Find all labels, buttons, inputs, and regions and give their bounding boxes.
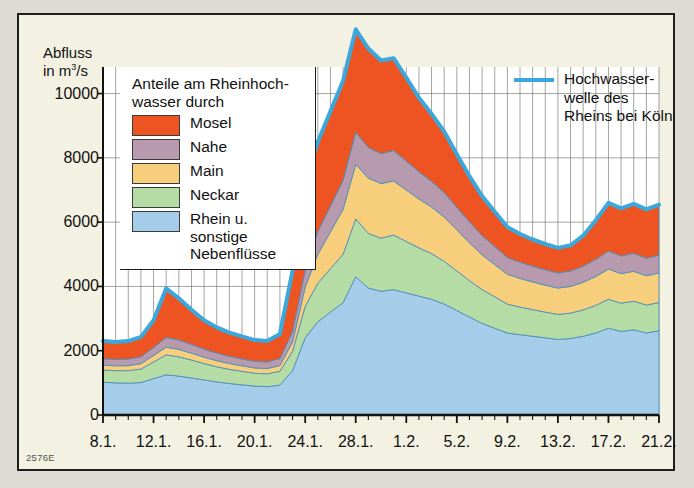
- y-tick-label: 2000: [63, 342, 99, 360]
- x-tick-label: 1.2.: [393, 433, 420, 451]
- legend-item-label: Neckar: [190, 186, 239, 204]
- legend-series: Anteile am Rheinhoch- wasser durch Mosel…: [120, 67, 316, 270]
- legend-color-swatch-icon: [132, 163, 180, 184]
- x-tick-label: 21.2.: [641, 433, 677, 451]
- x-tick-label: 16.1.: [186, 433, 222, 451]
- x-tick-label: 17.2.: [591, 433, 627, 451]
- x-axis-ticks: 8.1.12.1.16.1.20.1.24.1.28.1.1.2.5.2.9.2…: [19, 433, 673, 457]
- x-tick-label: 8.1.: [90, 433, 117, 451]
- legend-item-label: Main: [190, 162, 224, 180]
- figure-frame: Abflussin m3/s 0200040006000800010000 8.…: [17, 13, 675, 471]
- x-tick-label: 28.1.: [338, 433, 374, 451]
- legend-item-label: Nahe: [190, 138, 227, 156]
- y-tick-label: 4000: [63, 277, 99, 295]
- legend-total-line: Hochwasser- welle des Rheins bei Köln: [514, 70, 673, 126]
- x-tick-label: 13.2.: [540, 433, 576, 451]
- y-tick-label: 6000: [63, 213, 99, 231]
- y-tick-label: 8000: [63, 149, 99, 167]
- x-tick-label: 5.2.: [443, 433, 470, 451]
- legend-item: Rhein u. sonstige Nebenflüsse: [132, 210, 309, 263]
- legend-title: Anteile am Rheinhoch- wasser durch: [132, 75, 309, 111]
- legend-total-line-label: Hochwasser- welle des Rheins bei Köln: [564, 70, 673, 126]
- legend-item-label: Rhein u. sonstige Nebenflüsse: [190, 210, 309, 263]
- y-tick-label: 0: [90, 406, 99, 424]
- line-swatch-icon: [514, 78, 554, 82]
- x-tick-label: 9.2.: [494, 433, 521, 451]
- y-axis-ticks: 0200040006000800010000: [19, 15, 99, 469]
- x-tick-label: 20.1.: [237, 433, 273, 451]
- figure-code: 2576E: [26, 452, 55, 463]
- legend-item: Neckar: [132, 186, 309, 208]
- legend-color-swatch-icon: [132, 115, 180, 136]
- x-tick-label: 24.1.: [287, 433, 323, 451]
- legend-item: Mosel: [132, 114, 309, 136]
- legend-item: Main: [132, 162, 309, 184]
- legend-color-swatch-icon: [132, 211, 180, 232]
- x-tick-label: 12.1.: [136, 433, 172, 451]
- y-tick-label: 10000: [55, 85, 100, 103]
- legend-item: Nahe: [132, 138, 309, 160]
- legend-item-label: Mosel: [190, 114, 231, 132]
- legend-color-swatch-icon: [132, 187, 180, 208]
- legend-color-swatch-icon: [132, 139, 180, 160]
